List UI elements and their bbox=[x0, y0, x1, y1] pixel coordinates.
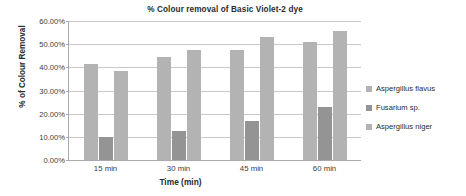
bar bbox=[157, 57, 171, 160]
bar bbox=[230, 50, 244, 161]
bar-groups: 15 min30 min45 min60 min bbox=[69, 21, 361, 160]
bar bbox=[333, 31, 347, 160]
legend-label: Aspergillus flavus bbox=[376, 84, 435, 93]
bar bbox=[303, 42, 317, 160]
legend-item: Aspergillus niger bbox=[366, 117, 466, 136]
x-axis-tick-label: 30 min bbox=[142, 164, 215, 173]
plot-area: 0.00%10.00%20.00%30.00%40.00%50.00%60.00… bbox=[68, 21, 361, 160]
bar bbox=[99, 137, 113, 160]
bar bbox=[245, 121, 259, 160]
y-axis-tick-mark bbox=[66, 160, 69, 161]
x-axis-tick-label: 15 min bbox=[69, 164, 142, 173]
legend-swatch-icon bbox=[366, 86, 372, 92]
bar-group: 60 min bbox=[288, 21, 361, 160]
bar bbox=[318, 107, 332, 160]
bar bbox=[187, 50, 201, 160]
bar bbox=[172, 131, 186, 160]
y-axis-title: % of Colour Removal bbox=[18, 7, 27, 127]
bar-group: 15 min bbox=[69, 21, 142, 160]
bar-chart: % Colour removal of Basic Violet-2 dye %… bbox=[0, 0, 466, 196]
x-axis-tick-label: 45 min bbox=[215, 164, 288, 173]
bar bbox=[84, 64, 98, 160]
bar bbox=[114, 71, 128, 160]
bar-group: 45 min bbox=[215, 21, 288, 160]
y-axis-tick-label: 10.00% bbox=[39, 132, 65, 141]
bar-group: 30 min bbox=[142, 21, 215, 160]
y-axis-tick-label: 50.00% bbox=[39, 40, 65, 49]
legend-label: Aspergillus niger bbox=[376, 122, 432, 131]
legend-swatch-icon bbox=[366, 105, 372, 111]
x-axis-title: Time (min) bbox=[68, 177, 293, 187]
legend-item: Aspergillus flavus bbox=[366, 79, 466, 98]
legend-label: Fusarium sp. bbox=[376, 103, 420, 112]
x-axis-tick-label: 60 min bbox=[288, 164, 361, 173]
bar bbox=[260, 37, 274, 160]
y-axis-tick-label: 20.00% bbox=[39, 109, 65, 118]
y-axis-tick-label: 30.00% bbox=[39, 86, 65, 95]
legend-item: Fusarium sp. bbox=[366, 98, 466, 117]
chart-title: % Colour removal of Basic Violet-2 dye bbox=[100, 5, 350, 14]
x-axis-line bbox=[69, 160, 361, 161]
y-axis-tick-label: 60.00% bbox=[39, 17, 65, 26]
y-axis-tick-label: 0.00% bbox=[43, 156, 65, 165]
y-axis-tick-label: 40.00% bbox=[39, 63, 65, 72]
legend-swatch-icon bbox=[366, 124, 372, 130]
legend: Aspergillus flavusFusarium sp.Aspergillu… bbox=[366, 79, 466, 136]
